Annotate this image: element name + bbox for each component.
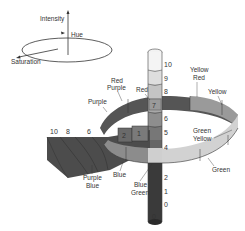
label-yellow-red-line2: Red xyxy=(193,74,205,81)
intensity-bottom-label: 0 xyxy=(152,213,156,220)
intensity-2-label: 2 xyxy=(164,174,168,181)
saturation-axis-icon xyxy=(19,49,58,57)
label-red-purple-line2: Purple xyxy=(107,84,126,92)
label-green-yellow-line1: Green xyxy=(193,127,211,134)
label-green-yellow-line2: Yellow xyxy=(193,135,212,142)
intensity-5-label: 5 xyxy=(164,129,168,136)
label-green: Green xyxy=(212,166,230,173)
saturation-8-label: 8 xyxy=(66,128,70,135)
intensity-7-label: 7 xyxy=(152,102,156,109)
saturation-2-label: 2 xyxy=(122,132,126,139)
saturation-scale: 10 8 6 xyxy=(50,128,91,135)
label-red-purple-line1: Red xyxy=(111,77,123,84)
label-blue-green-line2: Green xyxy=(131,189,149,196)
label-yellow-red-line1: Yellow xyxy=(190,66,209,73)
intensity-column: 7 xyxy=(148,49,162,225)
saturation-10-label: 10 xyxy=(50,128,58,135)
label-blue: Blue xyxy=(113,171,126,178)
hue-arrow-icon xyxy=(61,32,65,35)
label-red: Red xyxy=(136,86,148,93)
intensity-9-label: 9 xyxy=(164,75,168,82)
hue-label: Hue xyxy=(71,31,83,38)
label-purple: Purple xyxy=(88,98,107,106)
label-yellow: Yellow xyxy=(208,88,227,95)
saturation-6-label: 6 xyxy=(87,128,91,135)
intensity-label: Intensity xyxy=(40,15,65,23)
saturation-1-label: 1 xyxy=(137,130,141,137)
intensity-4-label: 4 xyxy=(164,144,168,151)
intensity-1-label: 1 xyxy=(164,188,168,195)
intensity-0-label: 0 xyxy=(164,201,168,208)
label-purple-blue-line1: Purple xyxy=(83,174,102,182)
legend-axes: Intensity Hue Saturation xyxy=(11,10,112,65)
label-purple-blue-line2: Blue xyxy=(86,182,99,189)
intensity-6-label: 6 xyxy=(164,115,168,122)
saturation-label: Saturation xyxy=(11,58,41,65)
intensity-10-label: 10 xyxy=(164,61,172,68)
intensity-8-label: 8 xyxy=(164,88,168,95)
label-blue-green-line1: Blue xyxy=(134,181,147,188)
hsi-color-diagram: Intensity Hue Saturation 7 xyxy=(0,0,245,231)
